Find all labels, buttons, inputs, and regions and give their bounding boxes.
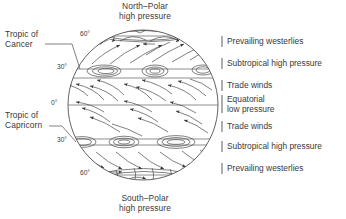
latitude-label-60s: 60° xyxy=(80,169,90,176)
tropic-of-capricorn-label: Tropic of Capricorn xyxy=(5,111,42,130)
trade-winds-south-arrows xyxy=(76,101,208,136)
label-trade-winds-north: Trade winds xyxy=(227,81,272,91)
north-polar-high-pressure-label: North–Polar high pressure xyxy=(95,2,195,21)
label-prevailing-westerlies-north: Prevailing westerlies xyxy=(227,37,303,47)
circulation-diagram xyxy=(0,0,346,219)
label-equatorial-low-pressure: Equatorial low pressure xyxy=(227,95,274,114)
latitude-label-30n: 30° xyxy=(57,63,67,70)
latitude-label-equator: 0° xyxy=(51,99,57,106)
subtropical-high-cells-south xyxy=(68,136,195,149)
south-polar-line2: high pressure xyxy=(95,204,195,214)
tropic-of-cancer-line2: Cancer xyxy=(5,40,38,50)
westerlies-north-arrows xyxy=(78,40,212,64)
label-subtropical-high-pressure-south: Subtropical high pressure xyxy=(227,142,322,152)
south-polar-high-pressure-label: South–Polar high pressure xyxy=(95,194,195,213)
tropic-of-capricorn-line2: Capricorn xyxy=(5,121,42,131)
latitude-label-60n: 60° xyxy=(80,30,90,37)
tropic-of-cancer-label: Tropic of Cancer xyxy=(5,30,38,49)
subtropical-high-cells-north xyxy=(87,65,214,77)
label-trade-winds-south: Trade winds xyxy=(227,122,272,132)
equatorial-low-line2: low pressure xyxy=(227,105,274,115)
label-subtropical-high-pressure-north: Subtropical high pressure xyxy=(227,59,322,69)
label-prevailing-westerlies-south: Prevailing westerlies xyxy=(227,164,303,174)
trade-winds-north-arrows xyxy=(68,79,212,101)
north-polar-line2: high pressure xyxy=(95,12,195,22)
latitude-label-30s: 30° xyxy=(57,136,67,143)
